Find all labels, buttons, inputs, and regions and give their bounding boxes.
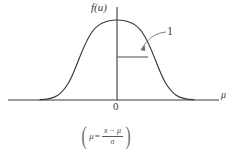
formula-numerator: x − μ	[102, 127, 123, 136]
y-axis-label: f(u)	[91, 2, 107, 13]
formula-close-paren: )	[125, 126, 130, 147]
formula-open-paren: (	[82, 126, 87, 147]
transformation-formula: ( μ = x − μ σ )	[80, 126, 132, 147]
formula-lhs: μ	[89, 131, 94, 141]
formula-body: μ = x − μ σ	[89, 127, 123, 146]
origin-label: 0	[113, 101, 119, 112]
formula-fraction: x − μ σ	[102, 127, 123, 146]
annotation-label-one: 1	[167, 25, 173, 37]
formula-equals-sign: =	[95, 131, 100, 141]
normal-distribution-figure: f(u) 1 0 μ ( μ = x − μ σ )	[0, 0, 234, 156]
x-axis-label: μ	[221, 90, 226, 100]
formula-denominator: σ	[108, 137, 116, 146]
